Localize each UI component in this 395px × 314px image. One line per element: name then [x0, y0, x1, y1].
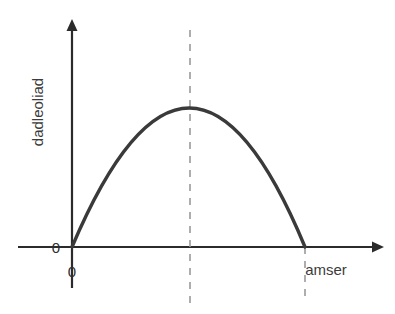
displacement-time-graph: 0 0 amser dadleoliad — [0, 0, 395, 314]
y-axis-label: dadleoliad — [29, 78, 46, 146]
y-origin-label: 0 — [52, 239, 60, 256]
x-origin-label: 0 — [68, 263, 76, 280]
x-axis-label: amser — [305, 261, 347, 278]
